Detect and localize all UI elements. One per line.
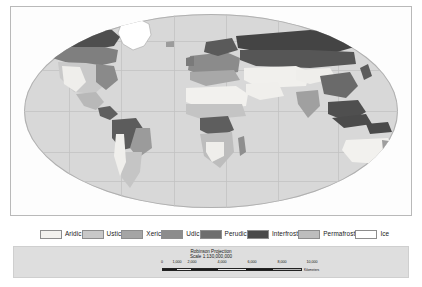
region-australia-east <box>382 140 396 162</box>
legend-swatch-perudic <box>200 230 222 239</box>
region-mexico <box>76 92 104 110</box>
legend-label-xeric: Xeric <box>146 231 161 237</box>
legend-swatch-udic <box>161 230 183 239</box>
region-japan <box>360 64 372 80</box>
region-middle-east <box>246 82 284 100</box>
scale-segment-2 <box>191 269 219 270</box>
region-new-zealand <box>402 162 410 174</box>
legend-swatch-interfrost <box>247 230 269 239</box>
region-new-guinea <box>366 122 392 134</box>
region-siberia-interfrost <box>240 50 356 68</box>
projection-info: Robinson Projection Scale 1:130,000,000 <box>14 249 408 259</box>
scale-tick-5: 8,000 <box>278 261 287 265</box>
legend-label-ice: Ice <box>380 231 389 237</box>
region-british-isles <box>186 56 194 66</box>
legend-swatch-aridic <box>40 230 62 239</box>
legend-item-permafrost[interactable]: Permafrost <box>298 230 355 239</box>
scale-segment-0 <box>163 269 177 270</box>
region-central-america <box>98 106 118 120</box>
legend-item-ustic[interactable]: Ustic <box>82 230 122 239</box>
legend-swatch-xeric <box>121 230 143 239</box>
map-panel[interactable] <box>10 6 412 216</box>
scale-tick-0: 0 <box>161 261 163 265</box>
scale-panel: Robinson Projection Scale 1:130,000,000 … <box>13 246 409 278</box>
region-alaska <box>36 39 56 54</box>
region-iceland <box>166 41 174 47</box>
legend-item-interfrost[interactable]: Interfrost <box>247 230 298 239</box>
legend-label-ustic: Ustic <box>107 231 122 237</box>
legend-item-perudic[interactable]: Perudic <box>200 230 247 239</box>
scale-units-label: Kilometers <box>304 269 319 272</box>
legend-label-udic: Udic <box>186 231 199 237</box>
legend-item-aridic[interactable]: Aridic <box>40 230 82 239</box>
scale-tick-3: 4,000 <box>218 261 227 265</box>
legend-item-ice[interactable]: Ice <box>355 230 389 239</box>
region-madagascar <box>238 136 246 156</box>
scale-segment-1 <box>177 269 191 270</box>
legend-label-perudic: Perudic <box>225 231 247 237</box>
region-india <box>296 90 320 118</box>
map-legend: Aridic Ustic Xeric Udic Perudic Interfro… <box>40 226 385 242</box>
scale-tick-labels: 01,0002,0004,0006,0008,00010,000 <box>162 261 312 267</box>
scale-segment-5 <box>273 269 301 270</box>
legend-label-aridic: Aridic <box>65 231 82 237</box>
legend-swatch-permafrost <box>298 230 320 239</box>
region-greenland <box>118 19 151 50</box>
region-scandinavia <box>204 38 238 56</box>
legend-item-udic[interactable]: Udic <box>161 230 199 239</box>
legend-label-permafrost: Permafrost <box>323 231 355 237</box>
legend-label-interfrost: Interfrost <box>272 231 298 237</box>
scale-tick-2: 2,000 <box>188 261 197 265</box>
scale-tick-1: 1,000 <box>173 261 182 265</box>
map-scale-ratio: Scale 1:130,000,000 <box>14 254 408 259</box>
region-north-america-arctic <box>50 28 120 49</box>
scale-bar: 01,0002,0004,0006,0008,00010,000 Kilomet… <box>162 261 312 275</box>
scale-tick-6: 10,000 <box>307 261 318 265</box>
legend-swatch-ustic <box>82 230 104 239</box>
landmasses <box>10 6 412 216</box>
scale-segment-4 <box>246 269 274 270</box>
scale-bar-graphic <box>162 268 302 271</box>
legend-swatch-ice <box>355 230 377 239</box>
scale-segment-3 <box>218 269 246 270</box>
region-mediterranean-xeric <box>190 70 240 86</box>
scale-tick-4: 6,000 <box>248 261 257 265</box>
legend-item-xeric[interactable]: Xeric <box>121 230 161 239</box>
map-page: Aridic Ustic Xeric Udic Perudic Interfro… <box>0 0 422 287</box>
region-china-east <box>320 72 358 98</box>
